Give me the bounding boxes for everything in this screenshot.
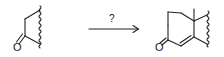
product-oxygen-label: O — [155, 41, 164, 53]
reagent-label: ? — [109, 13, 115, 24]
reactant-bond-bottom — [25, 36, 40, 44]
reaction-scheme: O ? O — [0, 0, 224, 57]
reactant-wavy-bond — [39, 6, 41, 48]
product-alkene-bond-2 — [180, 36, 191, 44]
product-bond-2 — [168, 12, 181, 13]
product-structure — [160, 9, 209, 47]
reactant-bond-top — [25, 10, 40, 19]
product-bond-5 — [168, 40, 181, 46]
reactant-oxygen-label: O — [13, 41, 22, 53]
product-bond-lower-right — [194, 37, 207, 44]
product-bond-3 — [181, 13, 194, 21]
reaction-arrow — [89, 26, 139, 33]
product-bond-upper-right — [194, 15, 207, 21]
product-wavy-bond — [207, 11, 209, 47]
